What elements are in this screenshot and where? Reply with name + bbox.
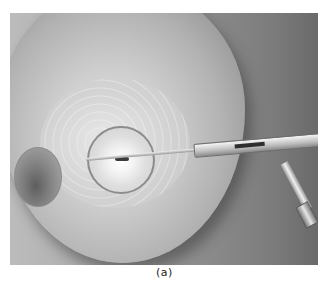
probe-connector [295,201,318,229]
probe-label-band [235,142,265,149]
figure-caption: (a) [0,266,329,279]
medical-illustration [10,13,318,265]
nipple [14,147,62,207]
